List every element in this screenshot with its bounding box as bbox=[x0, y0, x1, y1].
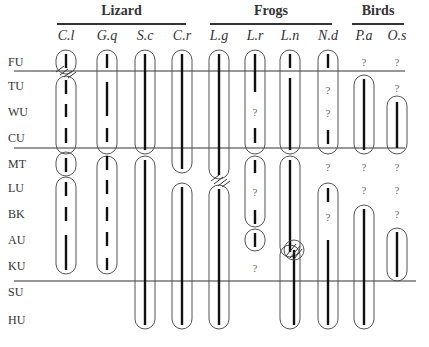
svg-text:?: ? bbox=[395, 56, 400, 68]
svg-text:?: ? bbox=[253, 106, 258, 118]
svg-text:?: ? bbox=[326, 84, 331, 96]
svg-text:?: ? bbox=[395, 161, 400, 173]
svg-text:?: ? bbox=[362, 184, 367, 196]
svg-text:?: ? bbox=[326, 161, 331, 173]
range-bars bbox=[66, 54, 397, 325]
svg-text:?: ? bbox=[326, 107, 331, 119]
svg-text:?: ? bbox=[395, 208, 400, 220]
svg-text:?: ? bbox=[253, 262, 258, 274]
svg-text:?: ? bbox=[395, 184, 400, 196]
svg-text:?: ? bbox=[326, 211, 331, 223]
svg-text:?: ? bbox=[395, 82, 400, 94]
divider-lines bbox=[14, 71, 416, 281]
diagram-canvas: ? ? ? ? ? ? ? ? ? ? ? ? ? ? ? bbox=[0, 0, 429, 347]
hatch-marks bbox=[56, 66, 304, 260]
question-marks: ? ? ? ? ? ? ? ? ? ? ? ? ? ? ? bbox=[253, 56, 400, 274]
svg-text:?: ? bbox=[253, 186, 258, 198]
capsules bbox=[56, 50, 407, 329]
svg-text:?: ? bbox=[362, 56, 367, 68]
svg-text:?: ? bbox=[362, 161, 367, 173]
